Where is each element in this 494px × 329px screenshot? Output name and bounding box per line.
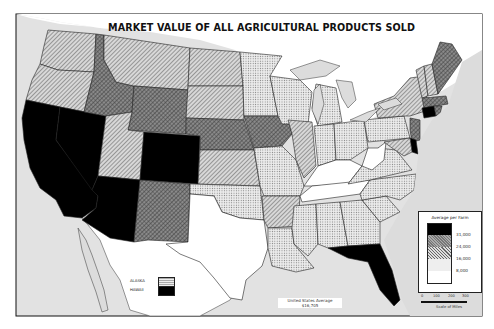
legend-break-1: 31,000	[456, 232, 471, 237]
legend-swatch-c3	[427, 247, 452, 259]
scale-tick: 100	[433, 294, 440, 298]
scale-of-miles: 0 100 200 300 Scale of Miles	[418, 294, 480, 314]
legend-swatch-c4	[427, 259, 452, 271]
scale-tick: 0	[421, 294, 423, 298]
state-IN	[314, 124, 336, 166]
state-WY	[128, 86, 188, 134]
map-figure: MARKET VALUE OF ALL AGRICULTURAL PRODUCT…	[0, 0, 494, 329]
scale-bar	[421, 301, 467, 303]
legend-break-4: 8,000	[456, 268, 468, 273]
legend-title: Average per Farm	[419, 215, 481, 220]
scale-label: Scale of Miles	[418, 304, 480, 309]
map-title: MARKET VALUE OF ALL AGRICULTURAL PRODUCT…	[108, 22, 388, 33]
us-average-value: $16,705	[278, 303, 342, 308]
state-SD	[186, 86, 244, 120]
legend-swatch-c5	[427, 271, 452, 284]
state-CO	[140, 132, 200, 184]
inset-labels: ALASKA HAWAII	[130, 276, 145, 294]
state-ND	[188, 48, 243, 86]
state-NM	[134, 180, 190, 242]
legend-break-2: 24,000	[456, 244, 471, 249]
state-KS	[198, 150, 260, 186]
legend-break-3: 16,000	[456, 256, 471, 261]
scale-tick: 300	[462, 294, 469, 298]
hawaii-swatch	[158, 286, 175, 296]
state-WA	[40, 30, 96, 72]
us-average: United States Average $16,705	[278, 298, 342, 308]
alaska-label: ALASKA	[130, 276, 145, 285]
legend-swatch-c2	[427, 235, 452, 247]
state-PA	[364, 116, 410, 142]
state-CT	[422, 106, 436, 118]
hawaii-label: HAWAII	[130, 285, 145, 294]
scale-tick: 200	[448, 294, 455, 298]
legend: Average per Farm 31,000 24,000 16,000 8,…	[418, 211, 482, 293]
